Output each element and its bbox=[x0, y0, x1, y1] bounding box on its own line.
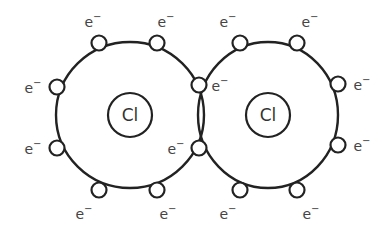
left-chlorine-atom: Cl bbox=[56, 42, 204, 188]
electron-label: e− bbox=[84, 11, 101, 31]
shared-electron-dot bbox=[192, 141, 207, 156]
left-electron-dot bbox=[92, 36, 107, 51]
electron-label: e− bbox=[167, 138, 184, 158]
electron-label: e− bbox=[75, 203, 92, 223]
electron-label: e− bbox=[302, 203, 319, 223]
left-electron-dot bbox=[50, 80, 65, 95]
right-electron-dot bbox=[290, 36, 305, 51]
cl2-covalent-bond-diagram: Cl Cl e−e−e−e−e−e−e−e−e−e−e−e−e−e− bbox=[0, 0, 392, 233]
right-nucleus-label: Cl bbox=[260, 105, 277, 125]
right-electron-dot bbox=[233, 36, 248, 51]
electron-label: e− bbox=[353, 74, 370, 94]
right-electron-dot bbox=[233, 183, 248, 198]
electron-label: e− bbox=[301, 11, 318, 31]
right-electron-dot bbox=[331, 138, 346, 153]
right-electron-dot bbox=[331, 77, 346, 92]
left-nucleus-label: Cl bbox=[122, 105, 139, 125]
electron-label: e− bbox=[219, 203, 236, 223]
left-electron-dot bbox=[150, 36, 165, 51]
right-electron-dot bbox=[290, 183, 305, 198]
shared-electron-dot bbox=[192, 78, 207, 93]
electron-label: e− bbox=[24, 77, 41, 97]
left-electron-dot bbox=[92, 183, 107, 198]
electron-label: e− bbox=[157, 11, 174, 31]
right-chlorine-atom: Cl bbox=[198, 42, 338, 188]
electron-label: e− bbox=[159, 203, 176, 223]
electron-label: e− bbox=[211, 75, 228, 95]
electron-label: e− bbox=[24, 138, 41, 158]
left-electron-dot bbox=[150, 183, 165, 198]
left-electron-dot bbox=[50, 141, 65, 156]
electron-label: e− bbox=[219, 11, 236, 31]
electron-label: e− bbox=[353, 135, 370, 155]
